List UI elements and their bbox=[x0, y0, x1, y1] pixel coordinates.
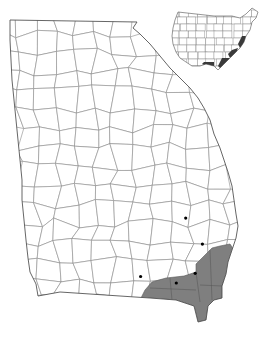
inset-state bbox=[242, 59, 251, 66]
inset-state bbox=[189, 66, 198, 73]
inset-state bbox=[179, 31, 188, 38]
inset-state bbox=[243, 10, 252, 17]
inset-state bbox=[234, 66, 243, 73]
inset-state bbox=[179, 10, 188, 17]
inset-state bbox=[234, 10, 243, 17]
us-inset-map bbox=[0, 0, 274, 338]
inset-state bbox=[198, 10, 207, 17]
inset-state bbox=[206, 38, 215, 45]
inset-state bbox=[252, 45, 261, 52]
inset-state bbox=[243, 52, 252, 59]
inset-state bbox=[234, 24, 243, 31]
inset-state bbox=[170, 59, 179, 66]
inset-state bbox=[251, 59, 260, 66]
inset-state bbox=[178, 17, 187, 24]
inset-state bbox=[171, 66, 180, 73]
inset-state bbox=[214, 24, 223, 31]
inset-state bbox=[170, 31, 179, 38]
inset-state bbox=[250, 52, 259, 59]
inset-state bbox=[214, 31, 223, 38]
inset-state bbox=[196, 45, 205, 52]
inset-state bbox=[205, 52, 214, 59]
inset-state bbox=[223, 31, 232, 38]
inset-state bbox=[196, 31, 205, 38]
inset-state bbox=[178, 59, 187, 66]
inset-state bbox=[196, 24, 205, 31]
inset-state bbox=[223, 66, 232, 73]
inset-state bbox=[197, 17, 206, 24]
inset-state bbox=[250, 31, 259, 38]
inset-state bbox=[180, 66, 189, 73]
inset-state bbox=[205, 66, 214, 73]
inset-state bbox=[252, 66, 261, 73]
inset-state bbox=[187, 17, 196, 24]
inset-range-area bbox=[202, 62, 214, 66]
inset-state bbox=[224, 38, 233, 45]
inset-state bbox=[252, 24, 261, 31]
inset-state bbox=[214, 45, 223, 52]
inset-state bbox=[170, 24, 179, 31]
inset-states bbox=[169, 10, 261, 73]
inset-state bbox=[187, 24, 196, 31]
inset-state bbox=[196, 38, 205, 45]
inset-state bbox=[251, 38, 260, 45]
inset-state bbox=[178, 45, 187, 52]
inset-state bbox=[187, 45, 196, 52]
inset-state bbox=[169, 38, 178, 45]
inset-state bbox=[223, 17, 232, 24]
inset-state bbox=[198, 66, 207, 73]
distribution-map bbox=[0, 0, 274, 338]
inset-state bbox=[187, 38, 196, 45]
inset-state bbox=[232, 59, 241, 66]
inset-state bbox=[216, 38, 225, 45]
inset-state bbox=[170, 52, 179, 59]
inset-state bbox=[214, 52, 223, 59]
inset-state bbox=[207, 17, 216, 24]
inset-state bbox=[241, 45, 250, 52]
inset-state bbox=[188, 59, 197, 66]
inset-state bbox=[223, 24, 232, 31]
inset-state bbox=[206, 45, 215, 52]
inset-state bbox=[242, 66, 251, 73]
inset-state bbox=[188, 52, 197, 59]
